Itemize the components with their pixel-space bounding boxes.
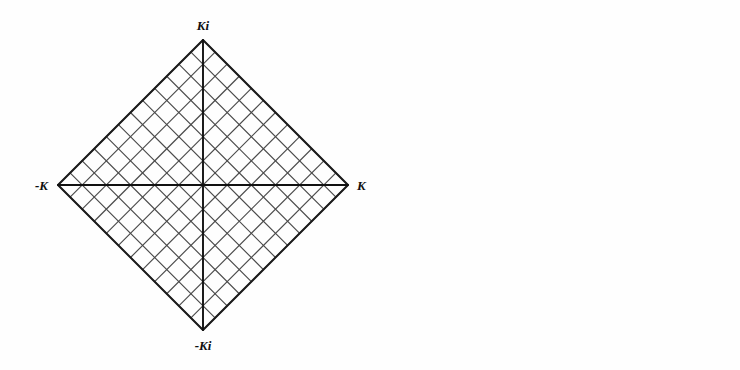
figure-root: K -K Ki -Ki 1 -1 i -i bbox=[0, 0, 740, 370]
disk-image-panel: 1 -1 i -i bbox=[370, 0, 740, 370]
square-domain-panel: K -K Ki -Ki bbox=[0, 0, 370, 370]
square-axes bbox=[58, 40, 348, 330]
square-vertex-label-Ki: Ki bbox=[196, 18, 210, 33]
square-vertex-label-neg-K: -K bbox=[35, 178, 49, 193]
square-vertex-label-neg-Ki: -Ki bbox=[195, 338, 212, 353]
square-vertex-label-K: K bbox=[356, 178, 367, 193]
disk-vertex-label-neg-i: -i bbox=[370, 0, 378, 3]
